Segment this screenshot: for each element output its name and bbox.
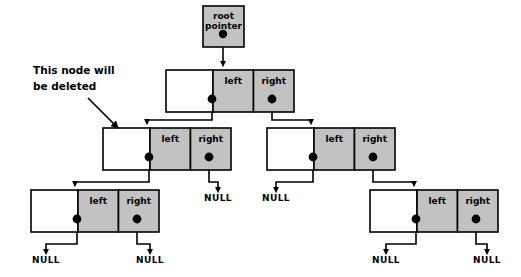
node-level2-left-dot: [208, 95, 217, 104]
annotation-line1: This node will: [33, 64, 115, 76]
node-level3-right-data-cell: [267, 128, 314, 170]
root-pointer-label-line2: pointer: [205, 21, 243, 31]
node-level4-right-left-label: left: [429, 196, 447, 206]
node-level3-left-data-cell: [103, 128, 150, 170]
node-level4-left-right-label: right: [126, 196, 151, 206]
null-level3-right-left-label: NULL: [262, 193, 290, 203]
node-level4-right: leftright: [370, 190, 498, 232]
node-level3-right: leftright: [267, 128, 395, 170]
node-level3-left-right-dot: [205, 153, 214, 162]
node-level3-right-left-dot: [309, 153, 318, 162]
node-level3-left-right-label: right: [198, 134, 223, 144]
annotation-line2: be deleted: [33, 80, 96, 92]
node-level4-left-right-dot: [133, 215, 142, 224]
node-level4-right-left-dot: [412, 215, 421, 224]
node-level3-right-right-label: right: [362, 134, 387, 144]
node-level4-left-left-dot: [73, 215, 82, 224]
node-level4-left-data-cell: [31, 190, 78, 232]
node-level2-right-dot: [268, 95, 277, 104]
node-level3-left-left-dot: [145, 153, 154, 162]
binary-tree-deletion-diagram: NULL NULL NULL NULL NULL NULL root point…: [0, 0, 521, 277]
node-level2-right-label: right: [261, 76, 286, 86]
node-level2-left-label: left: [225, 76, 243, 86]
node-level4-right-right-label: right: [465, 196, 490, 206]
node-level3-right-left-label: left: [326, 134, 344, 144]
null-level4-right-right-label: NULL: [473, 255, 501, 265]
null-level3-left-right-label: NULL: [204, 193, 232, 203]
node-level3-left-left-label: left: [162, 134, 180, 144]
root-pointer-node: root pointer: [203, 6, 244, 47]
root-pointer-label-line1: root: [213, 11, 235, 21]
diagram-background: [0, 0, 521, 277]
null-level4-left-right-label: NULL: [136, 255, 164, 265]
root-pointer-dot: [219, 30, 227, 38]
null-level4-left-left-label: NULL: [32, 255, 60, 265]
node-level4-left: leftright: [31, 190, 159, 232]
node-level3-left: leftright: [103, 128, 231, 170]
node-level4-right-right-dot: [472, 215, 481, 224]
node-level2: leftright: [166, 70, 294, 112]
node-level4-right-data-cell: [370, 190, 417, 232]
node-level3-right-right-dot: [369, 153, 378, 162]
null-level4-right-left-label: NULL: [372, 255, 400, 265]
node-level4-left-left-label: left: [90, 196, 108, 206]
node-level2-data-cell: [166, 70, 213, 112]
